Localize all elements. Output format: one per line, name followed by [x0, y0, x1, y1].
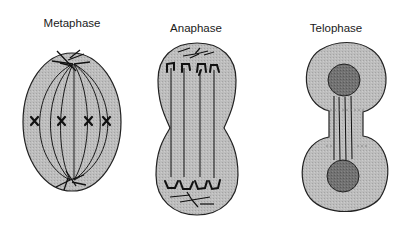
diagram-canvas [0, 0, 415, 226]
bottom-nucleus [327, 160, 359, 192]
telophase-cell [302, 43, 388, 212]
anaphase-cell [156, 43, 238, 215]
mitosis-diagram: Metaphase Anaphase Telophase [0, 0, 415, 226]
metaphase-cell [23, 50, 121, 191]
top-nucleus [328, 64, 360, 96]
